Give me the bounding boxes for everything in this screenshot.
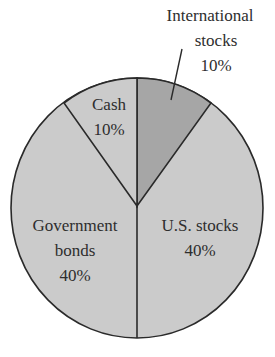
pie-chart: International stocks 10% Cash 10% Govern… xyxy=(0,0,275,357)
label-percent: 40% xyxy=(145,238,255,263)
label-percent: 40% xyxy=(20,263,130,288)
label-international-stocks: International stocks 10% xyxy=(150,3,270,78)
label-text: International xyxy=(150,3,270,28)
label-percent: 10% xyxy=(84,117,134,142)
label-text: bonds xyxy=(20,238,130,263)
label-percent: 10% xyxy=(162,53,270,78)
label-us-stocks: U.S. stocks 40% xyxy=(145,213,255,263)
label-text: U.S. stocks xyxy=(145,213,255,238)
label-text: Cash xyxy=(84,92,134,117)
label-government-bonds: Government bonds 40% xyxy=(20,213,130,288)
label-text: Government xyxy=(20,213,130,238)
label-cash: Cash 10% xyxy=(84,92,134,142)
label-text: stocks xyxy=(162,28,270,53)
